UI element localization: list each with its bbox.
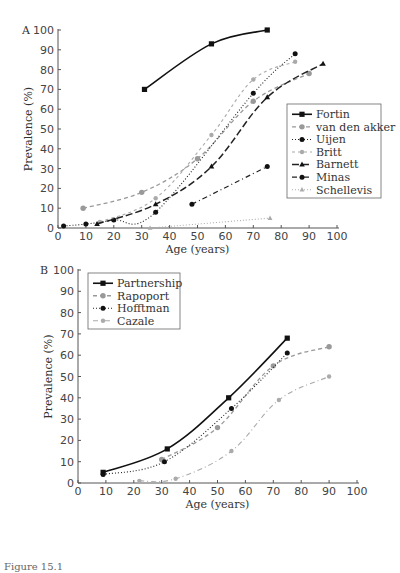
prevalence-charts: 0102030405060708090100010203040506070809… xyxy=(0,0,400,573)
x-tick-label: 30 xyxy=(135,230,149,243)
x-tick-label: 40 xyxy=(163,230,177,243)
y-axis-label: Prevalence (%) xyxy=(22,87,35,171)
y-tick-label: 60 xyxy=(40,103,54,116)
legend-entry: van den akker xyxy=(315,121,396,134)
y-tick-label: 90 xyxy=(60,285,74,298)
y-tick-label: 10 xyxy=(60,456,74,469)
series-cazale xyxy=(137,374,331,483)
x-tick-label: 30 xyxy=(155,485,169,498)
x-tick-label: 0 xyxy=(55,230,62,243)
y-tick-label: 20 xyxy=(40,182,54,195)
x-tick-label: 50 xyxy=(191,230,205,243)
y-tick-label: 100 xyxy=(33,24,54,37)
y-tick-label: 20 xyxy=(60,434,74,447)
y-tick-label: 60 xyxy=(60,349,74,362)
y-tick-label: 30 xyxy=(60,413,74,426)
x-tick-label: 70 xyxy=(266,485,280,498)
panel-label: B xyxy=(40,264,48,277)
series-uijen xyxy=(61,51,298,228)
x-tick-label: 100 xyxy=(327,230,348,243)
legend-entry: Minas xyxy=(316,171,350,184)
legend-entry: Uijen xyxy=(316,133,346,146)
legend-entry: Schellevis xyxy=(316,184,373,197)
x-tick-label: 100 xyxy=(347,485,368,498)
y-tick-label: 40 xyxy=(60,392,74,405)
panel-label: A xyxy=(21,24,31,37)
legend-entry: Barnett xyxy=(316,158,359,171)
legend-a: Fortinvan den akkerUijenBrittBarnettMina… xyxy=(287,104,396,198)
legend-entry: Partnership xyxy=(117,277,182,290)
x-tick-label: 10 xyxy=(99,485,113,498)
x-tick-label: 80 xyxy=(274,230,288,243)
y-tick-label: 80 xyxy=(40,64,54,77)
legend-entry: Rapoport xyxy=(117,290,170,303)
x-tick-label: 70 xyxy=(246,230,260,243)
y-tick-label: 10 xyxy=(40,202,54,215)
series-britt xyxy=(98,59,298,224)
y-tick-label: 80 xyxy=(60,307,74,320)
x-tick-label: 10 xyxy=(79,230,93,243)
x-tick-label: 60 xyxy=(238,485,252,498)
series-rapoport xyxy=(159,344,332,462)
y-tick-label: 0 xyxy=(47,222,54,235)
y-tick-label: 70 xyxy=(40,83,54,96)
x-tick-label: 90 xyxy=(322,485,336,498)
legend-b: PartnershipRapoportHofftmanCazale xyxy=(88,273,182,329)
y-tick-label: 100 xyxy=(53,264,74,277)
y-tick-label: 40 xyxy=(40,143,54,156)
legend-entry: Cazale xyxy=(117,315,154,328)
chart-panel-a: 0102030405060708090100010203040506070809… xyxy=(21,24,396,256)
x-tick-label: 60 xyxy=(218,230,232,243)
x-tick-label: 80 xyxy=(294,485,308,498)
y-tick-label: 30 xyxy=(40,163,54,176)
series-hofftman xyxy=(101,351,290,477)
legend-entry: Hofftman xyxy=(117,302,170,315)
chart-panel-b: 0102030405060708090100010203040506070809… xyxy=(40,264,368,511)
x-tick-label: 0 xyxy=(75,485,82,498)
y-axis-label: Prevalence (%) xyxy=(42,334,55,418)
x-tick-label: 20 xyxy=(127,485,141,498)
series-minas xyxy=(189,164,269,207)
y-tick-label: 50 xyxy=(40,123,54,136)
legend-entry: Fortin xyxy=(316,108,350,121)
x-axis-label: Age (years) xyxy=(185,498,250,511)
x-axis-label: Age (years) xyxy=(165,243,230,256)
y-tick-label: 0 xyxy=(67,477,74,490)
series-van-den-akker xyxy=(80,71,311,211)
figure-caption: Figure 15.1 xyxy=(4,561,63,572)
y-tick-label: 90 xyxy=(40,44,54,57)
y-tick-label: 50 xyxy=(60,371,74,384)
x-tick-label: 20 xyxy=(107,230,121,243)
x-tick-label: 40 xyxy=(183,485,197,498)
series-partnership xyxy=(101,336,290,475)
legend-entry: Britt xyxy=(316,146,342,159)
y-tick-label: 70 xyxy=(60,328,74,341)
x-tick-label: 50 xyxy=(211,485,225,498)
x-tick-label: 90 xyxy=(302,230,316,243)
